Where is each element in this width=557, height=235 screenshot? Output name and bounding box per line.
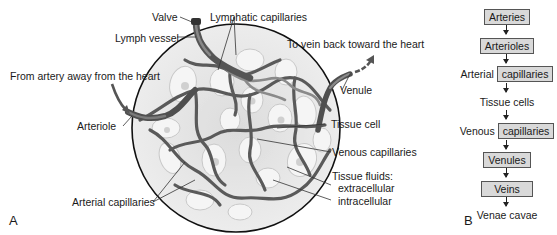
flow-box: capillaries	[498, 123, 555, 139]
panel-letter-b: B	[464, 214, 473, 228]
label-extracellular: extracellular	[338, 182, 395, 194]
label-lymphatic-capillaries: Lymphatic capillaries	[210, 11, 307, 23]
down-arrow-icon	[506, 110, 507, 119]
down-arrow-icon	[506, 168, 507, 177]
flow-step-venous-capillaries: Venous capillaries	[458, 123, 556, 139]
flow-box: Arterioles	[480, 38, 534, 54]
arrow-from-artery	[112, 84, 126, 110]
valve	[191, 18, 201, 25]
down-arrow-icon	[506, 197, 507, 206]
flow-prefix: Venous	[460, 125, 498, 137]
label-arterial-capillaries: Arterial capillaries	[72, 196, 155, 208]
label-from-artery: From artery away from the heart	[10, 70, 160, 82]
flow-text: Tissue cells	[480, 96, 534, 108]
flow-step-veins: Veins	[458, 181, 556, 197]
label-venous-capillaries: Venous capillaries	[332, 146, 417, 158]
label-valve: Valve	[152, 11, 178, 23]
down-arrow-icon	[506, 54, 507, 63]
label-arteriole: Arteriole	[77, 120, 116, 132]
label-lymph-vessel: Lymph vessel	[115, 32, 179, 44]
flow-step-venules: Venules	[458, 152, 556, 168]
flow-box: Veins	[481, 181, 533, 197]
arrow-to-vein	[355, 60, 371, 72]
flow-box: capillaries	[497, 66, 554, 82]
flow-step-arteries: Arteries	[458, 9, 556, 25]
flow-box: Arteries	[484, 9, 530, 25]
down-arrow-icon	[506, 140, 507, 149]
label-tissue-cell: Tissue cell	[331, 118, 380, 130]
flow-step-arterial-capillaries: Arterial capillaries	[458, 66, 556, 82]
label-intracellular: intracellular	[338, 195, 392, 207]
flow-step-arterioles: Arterioles	[458, 38, 556, 54]
down-arrow-icon	[506, 25, 507, 34]
label-venule: Venule	[340, 84, 372, 96]
label-to-vein: To vein back toward the heart	[287, 38, 424, 50]
flow-prefix: Arterial	[461, 68, 497, 80]
flow-step-tissue-cells: Tissue cells	[458, 96, 556, 108]
flow-box: Venules	[483, 152, 530, 168]
flow-step-venae-cavae: Venae cavae	[458, 209, 556, 221]
flow-text: Venae cavae	[477, 209, 538, 221]
down-arrow-icon	[506, 83, 507, 92]
panel-letter-a: A	[9, 214, 18, 228]
label-tissue-fluids: Tissue fluids:	[332, 170, 393, 182]
